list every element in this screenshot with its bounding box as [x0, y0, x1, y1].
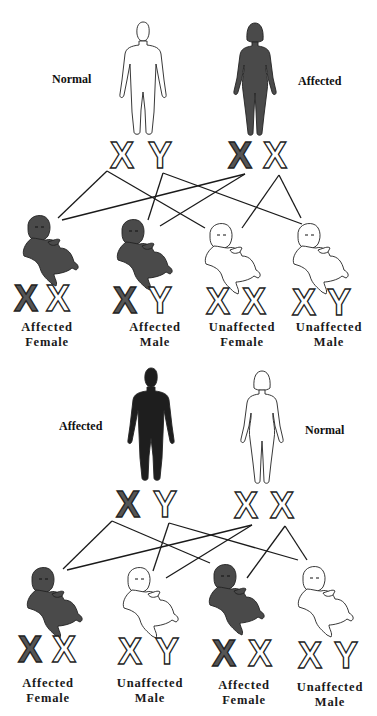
child-1-figure — [23, 216, 78, 287]
father-chromosome-x-2: X — [116, 487, 140, 523]
child-2-label: AffectedMale — [110, 320, 200, 350]
child-4-chromosome-2: Y — [327, 285, 351, 321]
father-chromosome-y-2: Y — [153, 487, 177, 523]
child-3-label: UnaffectedFemale — [197, 320, 287, 350]
child-5-label-line1: Affected — [22, 676, 74, 690]
father-status-label-2: Affected — [59, 419, 102, 434]
child-8-label: UnaffectedMale — [285, 680, 375, 710]
child-6-label: UnaffectedMale — [105, 676, 195, 706]
mother-status-label: Affected — [298, 74, 341, 89]
mother-figure — [234, 23, 276, 135]
mother-chromosome-x2-2: X — [270, 488, 294, 524]
figures-layer — [0, 0, 377, 716]
father-chromosome-x: X — [110, 138, 134, 174]
child-4-label-line2: Male — [314, 335, 344, 349]
father-chromosome-y: Y — [148, 138, 172, 174]
mother-chromosome-x2: X — [263, 138, 287, 174]
mother-chromosome-x1: X — [228, 138, 252, 174]
child-1-label-line1: Affected — [21, 320, 73, 334]
child-5-label-line2: Female — [26, 691, 70, 705]
child-1-label-line2: Female — [25, 335, 69, 349]
child-2-chromosome-2: Y — [148, 283, 172, 319]
child-7-label: AffectedFemale — [199, 678, 289, 708]
child-6-chromosome-2: Y — [155, 634, 179, 670]
child-6-chromosome-1: X — [118, 634, 142, 670]
child-3-label-line1: Unaffected — [209, 320, 275, 334]
child-6-figure — [123, 568, 178, 639]
child-7-chromosome-2: X — [248, 636, 272, 672]
father-status-label: Normal — [52, 72, 91, 87]
child-7-label-line1: Affected — [218, 678, 270, 692]
inheritance-diagram: Normal Affected X Y X X X X X Y X X X Y … — [0, 0, 377, 716]
child-7-label-line2: Female — [222, 693, 266, 707]
child-2-label-line1: Affected — [129, 320, 181, 334]
child-3-label-line2: Female — [220, 335, 264, 349]
child-4-label: UnaffectedMale — [284, 320, 374, 350]
child-7-figure — [209, 565, 264, 636]
child-1-label: AffectedFemale — [2, 320, 92, 350]
child-8-label-line1: Unaffected — [297, 680, 363, 694]
child-4-label-line1: Unaffected — [296, 320, 362, 334]
mother-status-label-2: Normal — [305, 423, 344, 438]
mother-figure-2 — [241, 371, 283, 483]
child-5-figure — [27, 568, 82, 639]
child-3-chromosome-2: X — [242, 284, 266, 320]
child-2-label-line2: Male — [140, 335, 170, 349]
child-5-label: AffectedFemale — [3, 676, 93, 706]
mother-chromosome-x1-2: X — [234, 488, 258, 524]
father-figure-2 — [128, 368, 174, 480]
child-6-label-line2: Male — [135, 691, 165, 705]
child-8-chromosome-1: X — [298, 638, 322, 674]
child-8-figure — [298, 567, 353, 638]
child-6-label-line1: Unaffected — [117, 676, 183, 690]
child-8-label-line2: Male — [315, 695, 345, 709]
child-2-chromosome-1: X — [113, 283, 137, 319]
child-8-chromosome-2: Y — [334, 638, 358, 674]
child-3-chromosome-1: X — [206, 284, 230, 320]
child-1-chromosome-1: X — [14, 281, 38, 317]
father-figure — [120, 22, 166, 134]
child-1-chromosome-2: X — [46, 281, 70, 317]
child-4-chromosome-1: X — [292, 285, 316, 321]
child-5-chromosome-1: X — [18, 632, 42, 668]
child-7-chromosome-1: X — [212, 636, 236, 672]
child-5-chromosome-2: X — [52, 632, 76, 668]
